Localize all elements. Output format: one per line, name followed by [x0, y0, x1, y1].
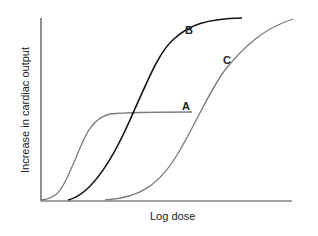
x-axis-label: Log dose — [150, 210, 195, 222]
curve-c — [105, 19, 293, 200]
curve-b — [68, 18, 242, 200]
curve-a-label: A — [182, 100, 190, 112]
curve-a — [41, 112, 192, 200]
y-axis-label: Increase in cardiac output — [19, 47, 31, 173]
curve-c-label: C — [223, 54, 231, 66]
curve-b-label: B — [185, 24, 193, 36]
dose-response-chart — [0, 0, 318, 236]
